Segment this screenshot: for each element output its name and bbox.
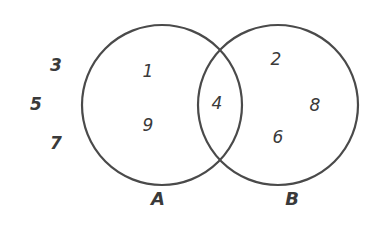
outside-element: 5 [30, 96, 42, 113]
a-only-element: 9 [143, 117, 154, 134]
outside-element: 7 [50, 135, 62, 152]
set-a-label: A [151, 190, 165, 208]
intersection-element: 4 [212, 95, 223, 112]
b-only-element: 2 [271, 51, 282, 68]
a-only-element: 1 [143, 63, 154, 80]
b-only-element: 6 [273, 129, 284, 146]
set-b-label: B [285, 190, 299, 208]
outside-element: 3 [50, 57, 62, 74]
b-only-element: 8 [310, 97, 321, 114]
